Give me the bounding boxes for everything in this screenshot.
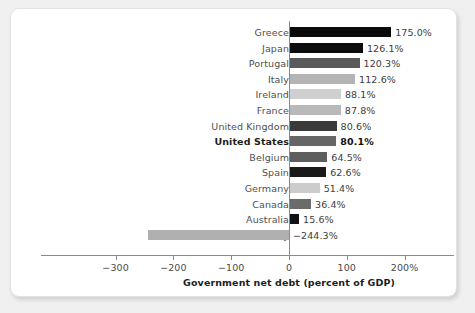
category-label: Spain <box>262 168 289 178</box>
x-tick-mark <box>116 255 117 260</box>
category-label: Germany <box>245 184 289 194</box>
category-label: Japan <box>262 44 289 54</box>
bar <box>290 43 363 53</box>
value-label: 80.1% <box>340 137 373 147</box>
value-label: 120.3% <box>364 59 401 69</box>
x-axis-line <box>41 255 454 256</box>
bar <box>290 214 299 224</box>
category-label: Greece <box>255 28 289 38</box>
category-label: France <box>257 106 289 116</box>
bar <box>290 136 336 146</box>
value-label: 64.5% <box>331 153 362 163</box>
category-label: United States <box>214 137 289 147</box>
value-label: 62.6% <box>330 168 361 178</box>
category-label: Canada <box>252 200 289 210</box>
category-label: Australia <box>246 215 289 225</box>
category-label: Italy <box>268 75 289 85</box>
bar <box>290 58 360 68</box>
x-tick-label: −200 <box>143 262 203 273</box>
bar <box>290 89 341 99</box>
x-tick-mark <box>231 255 232 260</box>
x-tick-mark <box>289 255 290 260</box>
value-label: 126.1% <box>367 44 404 54</box>
x-tick-label: 0 <box>259 262 319 273</box>
chart-card: −300−200−1000100200% Greece175.0%Japan12… <box>10 8 457 297</box>
bar <box>290 199 311 209</box>
category-label: Portugal <box>249 59 289 69</box>
bar <box>290 152 327 162</box>
bar <box>290 74 355 84</box>
x-tick-label: 200% <box>375 262 435 273</box>
value-label: 15.6% <box>303 215 334 225</box>
value-label: 175.0% <box>395 28 432 38</box>
bar <box>290 183 320 193</box>
x-tick-label: 100 <box>317 262 377 273</box>
value-label: 36.4% <box>315 200 346 210</box>
x-tick-label: −100 <box>201 262 261 273</box>
bar <box>290 27 391 37</box>
bar <box>290 105 341 115</box>
category-label: Ireland <box>255 90 289 100</box>
bar <box>148 230 289 240</box>
category-label: Belgium <box>249 153 289 163</box>
value-label: −244.3% <box>293 231 338 241</box>
bar <box>290 167 326 177</box>
value-label: 51.4% <box>324 184 355 194</box>
bar-chart-plot: −300−200−1000100200% Greece175.0%Japan12… <box>11 9 456 296</box>
value-label: 112.6% <box>359 75 396 85</box>
value-label: 87.8% <box>345 106 376 116</box>
x-tick-mark <box>405 255 406 260</box>
x-tick-label: −300 <box>86 262 146 273</box>
x-tick-mark <box>347 255 348 260</box>
category-label: United Kingdom <box>211 122 289 132</box>
bar <box>290 121 337 131</box>
value-label: 80.6% <box>341 122 372 132</box>
x-tick-mark <box>173 255 174 260</box>
value-label: 88.1% <box>345 90 376 100</box>
x-axis-title: Government net debt (percent of GDP) <box>183 277 395 288</box>
